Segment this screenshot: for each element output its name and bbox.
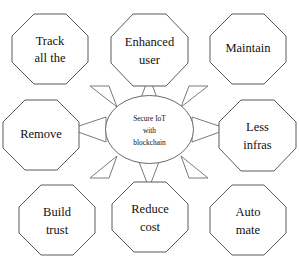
node-label-auto-mate-line2: mate: [236, 223, 261, 237]
arrow-down-left-to-build-trust: [90, 156, 117, 178]
node-label-track-all-the-line2: all the: [35, 51, 66, 65]
node-label-less-infras-line1: Less: [246, 120, 269, 134]
octagon-auto-mate[interactable]: [210, 185, 286, 255]
octagon-enhanced-user[interactable]: [111, 14, 188, 86]
node-less-infras[interactable]: Less infras: [219, 100, 296, 171]
node-label-enhanced-user-line1: Enhanced: [125, 35, 175, 49]
hub-and-spoke-diagram: Track all the Enhanced user Maintain Rem…: [0, 0, 299, 258]
node-label-reduce-cost-line2: cost: [140, 220, 161, 234]
octagon-build-trust[interactable]: [19, 185, 95, 255]
node-label-build-trust-line2: trust: [46, 223, 69, 237]
hub-secure-iot-with-blockchain[interactable]: Secure IoT with blockchain: [106, 96, 194, 164]
hub-label-line2: with: [143, 126, 156, 135]
node-track-all-the[interactable]: Track all the: [12, 14, 88, 84]
node-build-trust[interactable]: Build trust: [19, 185, 95, 255]
node-reduce-cost[interactable]: Reduce cost: [112, 182, 188, 252]
octagon-reduce-cost[interactable]: [112, 182, 188, 252]
node-label-reduce-cost-line1: Reduce: [131, 202, 169, 216]
node-label-track-all-the-line1: Track: [36, 34, 65, 48]
octagon-track-all-the[interactable]: [12, 14, 88, 84]
arrow-up-left-to-track-all-the: [90, 86, 117, 107]
node-label-build-trust-line1: Build: [43, 205, 72, 219]
hub-label-line1: Secure IoT: [133, 114, 166, 123]
node-enhanced-user[interactable]: Enhanced user: [111, 14, 188, 86]
node-auto-mate[interactable]: Auto mate: [210, 185, 286, 255]
diagram-canvas: Track all the Enhanced user Maintain Rem…: [0, 0, 299, 258]
arrow-up-right-to-maintain: [181, 86, 208, 107]
hub-label-line3: blockchain: [133, 138, 166, 147]
node-label-maintain-line1: Maintain: [225, 41, 271, 55]
node-label-remove-line1: Remove: [20, 127, 62, 141]
node-label-auto-mate-line1: Auto: [236, 205, 261, 219]
node-label-enhanced-user-line2: user: [139, 53, 161, 67]
node-maintain[interactable]: Maintain: [210, 14, 286, 84]
octagon-less-infras[interactable]: [219, 100, 296, 171]
node-label-less-infras-line2: infras: [243, 138, 272, 152]
arrow-down-right-to-auto-mate: [181, 156, 208, 178]
node-remove[interactable]: Remove: [3, 100, 79, 170]
